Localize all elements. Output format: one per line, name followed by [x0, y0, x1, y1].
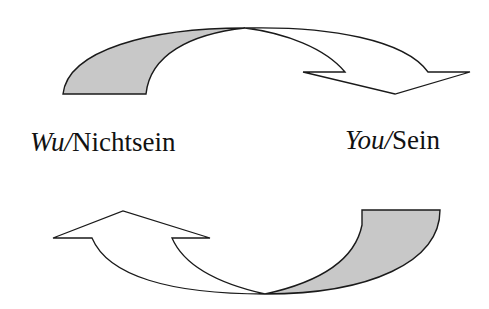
top-arrow-tail	[63, 28, 245, 94]
bottom-arrow-tail	[265, 210, 440, 294]
top-arrow-head	[245, 28, 470, 94]
bottom-arrow-head	[53, 211, 265, 294]
label-left-separator: /	[65, 127, 73, 157]
label-right-italic: You	[345, 125, 385, 155]
label-left-italic: Wu	[30, 127, 65, 157]
label-left-plain: Nichtsein	[72, 127, 175, 157]
label-right-plain: Sein	[392, 125, 440, 155]
label-you-sein: You/Sein	[345, 127, 440, 154]
label-right-separator: /	[385, 125, 393, 155]
label-wu-nichtsein: Wu/Nichtsein	[30, 129, 176, 156]
